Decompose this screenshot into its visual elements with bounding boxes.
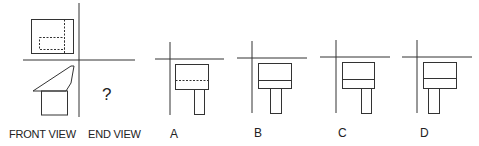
unknown-end-view-marker: ?	[102, 85, 111, 105]
option-c-figure	[320, 40, 390, 114]
option-c-label[interactable]: C	[338, 126, 347, 140]
option-a-label[interactable]: A	[170, 127, 178, 141]
option-d-figure	[402, 40, 472, 114]
option-b-figure	[237, 41, 307, 114]
front-view-label: FRONT VIEW	[9, 128, 76, 140]
top-view-outline	[32, 20, 74, 54]
option-d-label[interactable]: D	[420, 126, 429, 140]
front-view-base	[42, 91, 68, 115]
end-view-label: END VIEW	[88, 128, 141, 140]
option-a-figure	[155, 42, 224, 115]
orthographic-diagram	[0, 0, 479, 146]
front-view	[33, 66, 74, 115]
front-view-slanted-top	[33, 66, 74, 91]
top-view	[32, 20, 74, 54]
option-b-label[interactable]: B	[254, 126, 262, 140]
top-view-hidden-rect	[40, 38, 65, 50]
